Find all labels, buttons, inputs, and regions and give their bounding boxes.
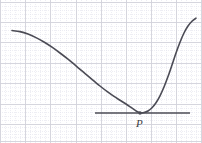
point-p-label: P	[136, 118, 143, 129]
parabola-curve	[12, 18, 196, 113]
graph-canvas	[0, 0, 202, 143]
tangent-point-marker	[138, 111, 141, 114]
graph-figure: P	[0, 0, 202, 143]
